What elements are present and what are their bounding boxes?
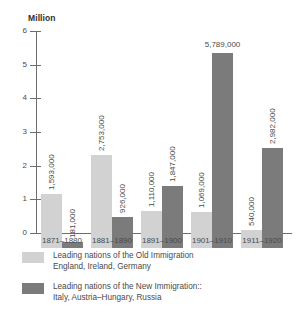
bar-value-label: 5,789,000 [200,41,245,49]
bar-group: 1,593,000181,000 [41,45,83,248]
legend-label-line2: England, Ireland, Germany [53,261,194,272]
bar-old[interactable] [91,155,112,248]
bar-value-label: 1,847,000 [169,146,177,182]
y-axis-tick [30,132,41,133]
bar-value-label: 926,000 [119,184,127,213]
legend-swatch [22,283,44,294]
y-axis-tick [30,166,41,167]
bar-value-label: 181,000 [69,209,77,238]
y-axis-tick-label: 5 [14,61,27,69]
bar-new[interactable] [262,148,283,248]
y-axis-tick-label: 0 [14,229,27,237]
plot-area: Million 0123456 1,593,000181,0002,753,00… [0,0,304,248]
y-axis-tick-label: 4 [14,94,27,102]
bar-group: 1,110,0001,847,000 [141,45,183,248]
y-axis-tick-label: 2 [14,162,27,170]
bar-value-label: 540,000 [248,197,256,226]
bar-group: 1,069,0005,789,000 [191,45,233,248]
bar-new[interactable] [212,53,233,248]
legend-label: Leading nations of the New Immigration::… [53,281,202,303]
legend-swatch [22,252,44,263]
y-axis-tick [30,233,41,234]
y-axis-tick [30,31,41,32]
legend-item[interactable]: Leading nations of the Old ImmigrationEn… [0,250,304,272]
legend-label-line1: Leading nations of the New Immigration:: [53,281,202,292]
bar-group: 2,753,000926,000 [91,45,133,248]
bar-value-label: 1,069,000 [198,172,206,208]
y-axis-tick-label: 1 [14,195,27,203]
chart-legend: Leading nations of the Old ImmigrationEn… [0,250,304,312]
y-axis-tick [30,199,41,200]
bar-value-label: 1,593,000 [48,155,56,191]
bar-group: 540,0002,982,000 [241,45,283,248]
immigration-bar-chart: Million 0123456 1,593,000181,0002,753,00… [0,0,304,326]
y-axis-tick [30,98,41,99]
bar-value-label: 1,110,000 [148,172,156,207]
y-axis-tick-label: 3 [14,128,27,136]
y-axis-tick-label: 6 [14,27,27,35]
bar-value-label: 2,982,000 [269,108,277,144]
bar-value-label: 2,753,000 [98,116,106,152]
legend-label: Leading nations of the Old ImmigrationEn… [53,250,194,272]
y-axis-tick [30,65,41,66]
y-axis-title: Million [28,13,56,23]
legend-label-line1: Leading nations of the Old Immigration [53,250,194,261]
x-axis-tick-label: 1911–1920 [231,237,293,245]
legend-label-line2: Italy, Austria–Hungary, Russia [53,292,202,303]
legend-item[interactable]: Leading nations of the New Immigration::… [0,281,304,303]
